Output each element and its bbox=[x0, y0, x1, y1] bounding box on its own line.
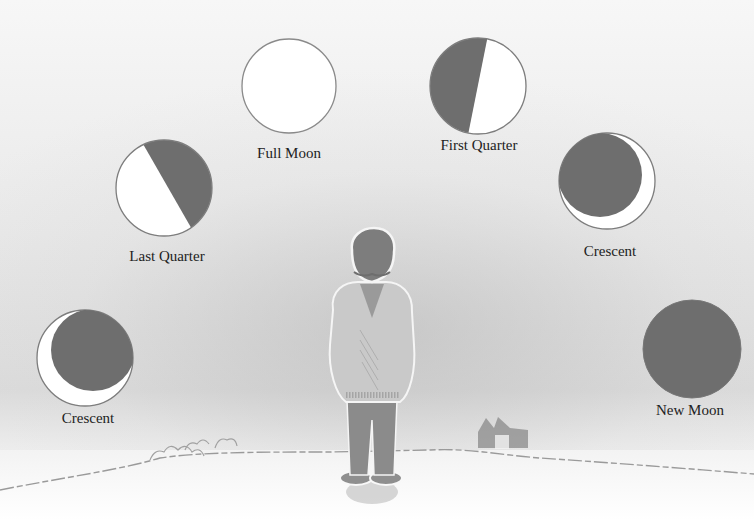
moon-crescent-waning bbox=[37, 309, 135, 406]
moon-crescent-waxing bbox=[558, 133, 655, 229]
label-crescent-right: Crescent bbox=[584, 243, 636, 260]
moon-first-quarter bbox=[420, 30, 526, 140]
label-last-quarter: Last Quarter bbox=[129, 248, 204, 265]
label-first-quarter: First Quarter bbox=[440, 137, 517, 154]
bushes bbox=[150, 439, 237, 460]
child-figure bbox=[330, 228, 415, 504]
moon-phases-illustration: Full Moon First Quarter Last Quarter Cre… bbox=[0, 0, 754, 520]
illustration-art bbox=[0, 0, 754, 520]
label-crescent-left: Crescent bbox=[62, 410, 114, 427]
moon-new bbox=[643, 300, 741, 398]
house-icon bbox=[478, 417, 528, 449]
moon-full bbox=[242, 39, 336, 133]
label-full-moon: Full Moon bbox=[257, 145, 321, 162]
label-new-moon: New Moon bbox=[656, 402, 724, 419]
moon-last-quarter bbox=[116, 130, 220, 245]
